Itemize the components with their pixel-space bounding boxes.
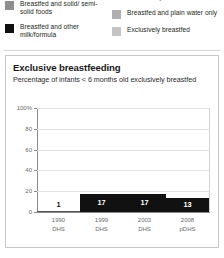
gridline xyxy=(37,150,209,151)
legend-column-left: Breastfed and solid/ semi-solid foods Br… xyxy=(5,0,105,46)
legend-item-label: Breastfed and plain water only xyxy=(127,9,220,17)
legend-item-label: Breastfed and other milk/formula xyxy=(20,23,105,40)
y-axis-tick-label: 20 xyxy=(13,188,32,194)
y-axis-tick-mark xyxy=(34,191,37,192)
x-axis-tick-label-line: DHS xyxy=(37,225,80,234)
y-axis-tick-mark xyxy=(34,150,37,151)
x-axis-tick-label-line: DHS xyxy=(80,225,123,234)
y-axis-tick-label: 40 xyxy=(13,167,32,173)
legend-item-label: Breastfed and solid/ semi-solid foods xyxy=(20,0,105,17)
gridline xyxy=(37,191,209,192)
legend-item-exclusively-breastfed: Exclusively breastfed xyxy=(112,26,220,37)
x-axis-tick-label: 1999DHS xyxy=(80,216,123,233)
legend-item-label: non-milk liquids xyxy=(127,0,220,1)
bar xyxy=(37,211,80,212)
legend-column-right: non-milk liquids Breastfed and plain wat… xyxy=(112,0,220,43)
legend-item-breastfed-other-milk: Breastfed and other milk/formula xyxy=(5,23,105,40)
y-axis-line xyxy=(37,108,38,213)
legend-swatch-icon xyxy=(112,10,121,19)
bar-chart: 100%806040200 1171713 1990DHS1999DHS2003… xyxy=(13,102,213,244)
gridline xyxy=(37,129,209,130)
bar-value-label: 1 xyxy=(37,201,80,209)
y-axis-tick-mark xyxy=(34,170,37,171)
gridline xyxy=(37,170,209,171)
x-axis-tick-label-line: DHS xyxy=(123,225,166,234)
x-axis-line xyxy=(37,212,210,213)
legend-swatch-icon xyxy=(5,1,14,10)
x-axis-tick-label: 2008pDHS xyxy=(166,216,209,233)
x-axis-tick-label: 2003DHS xyxy=(123,216,166,233)
chart-subtitle: Percentage of infants < 6 months old exc… xyxy=(13,75,211,84)
legend-item-non-milk-liquids: non-milk liquids xyxy=(112,0,220,4)
page-title: Exclusive breastfeeding xyxy=(13,62,211,74)
y-axis-tick-label: 60 xyxy=(13,147,32,153)
x-axis-tick-label-line: 2003 xyxy=(123,216,166,225)
legend-item-label: Exclusively breastfed xyxy=(127,26,220,34)
legend-swatch-icon xyxy=(5,24,14,33)
x-axis-tick-label-line: 2008 xyxy=(166,216,209,225)
y-axis-tick-mark xyxy=(34,108,37,109)
chart-card: Exclusive breastfeeding Percentage of in… xyxy=(5,55,219,248)
x-axis-tick-label-line: 1990 xyxy=(37,216,80,225)
bar-value-label: 17 xyxy=(80,199,123,207)
bar-value-label: 17 xyxy=(123,199,166,207)
chart-legend: Breastfed and solid/ semi-solid foods Br… xyxy=(0,0,224,50)
y-axis-tick-label: 100% xyxy=(13,105,32,111)
section-divider xyxy=(4,50,220,51)
y-axis-tick-label: 80 xyxy=(13,126,32,132)
y-axis-tick-mark xyxy=(34,129,37,130)
gridline xyxy=(37,108,209,109)
y-axis-tick-mark xyxy=(34,212,37,213)
legend-item-breastfed-plain-water: Breastfed and plain water only xyxy=(112,9,220,20)
legend-item-breastfed-solid-foods: Breastfed and solid/ semi-solid foods xyxy=(5,0,105,17)
legend-swatch-icon xyxy=(112,27,121,36)
x-axis-tick-label: 1990DHS xyxy=(37,216,80,233)
x-axis-tick-label-line: pDHS xyxy=(166,225,209,234)
x-axis-tick-label-line: 1999 xyxy=(80,216,123,225)
bar-value-label: 13 xyxy=(166,201,209,209)
y-axis-tick-label: 0 xyxy=(13,209,32,215)
